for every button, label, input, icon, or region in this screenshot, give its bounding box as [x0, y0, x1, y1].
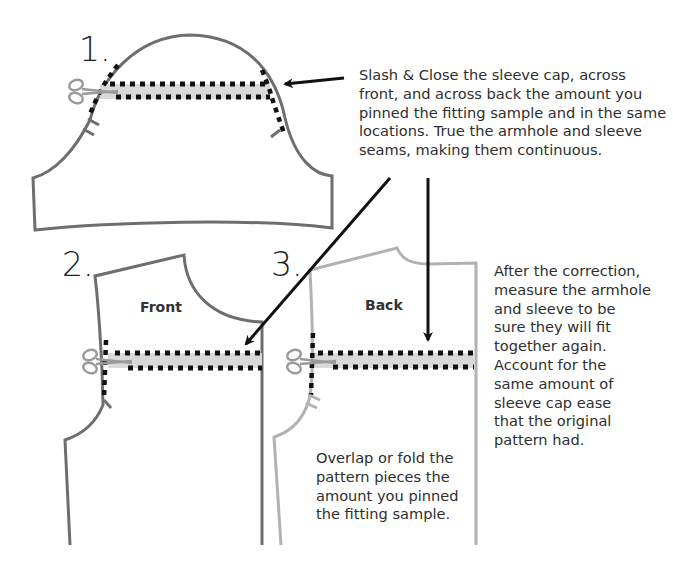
notch-mark-icon	[83, 119, 280, 137]
back-label: Back	[365, 298, 403, 312]
front-label: Front	[140, 300, 182, 314]
step-number-2: 2.	[62, 248, 94, 281]
arrow-icon	[246, 178, 390, 344]
arrow-icon	[285, 78, 344, 84]
sleeve-piece	[33, 35, 332, 230]
step-number-1: 1.	[79, 33, 111, 66]
step-number-3: 3.	[271, 248, 303, 281]
notch-mark-icon	[104, 400, 111, 408]
overlap-note: Overlap or fold the pattern pieces the a…	[316, 449, 458, 524]
after-correction-note: After the correction, measure the armhol…	[494, 262, 651, 450]
slash-close-note: Slash & Close the sleeve cap, across fro…	[359, 66, 666, 160]
